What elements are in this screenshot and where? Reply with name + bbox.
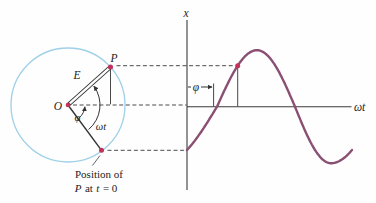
label-O: O <box>54 100 63 112</box>
label-omega-t-angle: ωt <box>96 121 107 132</box>
center-O-dot <box>66 103 71 108</box>
figure-canvas: P E O φ ωt Position of Patt= 0 x ωt φ <box>0 0 376 203</box>
caption-line2-eq: = 0 <box>103 182 118 194</box>
label-P: P <box>109 52 117 64</box>
caption-line1: Position of <box>75 168 123 180</box>
caption-line2-t: t <box>96 182 100 194</box>
caption-line2-P: P <box>74 182 82 194</box>
t0-position-dot <box>99 148 104 153</box>
caption-pointer-line <box>93 156 101 166</box>
point-P-dot <box>108 65 113 70</box>
caption-line2: Patt= 0 <box>74 182 118 194</box>
label-E: E <box>72 69 80 81</box>
graph-phi-label: φ <box>193 81 200 94</box>
caption-line2-at: at <box>85 182 93 194</box>
label-phi-angle: φ <box>75 112 81 123</box>
phasor-figure: P E O φ ωt Position of Patt= 0 x ωt φ <box>0 0 376 203</box>
omega-t-axis-label: ωt <box>354 101 366 113</box>
curve-marked-point-dot <box>235 63 240 68</box>
x-axis-label: x <box>182 7 189 19</box>
